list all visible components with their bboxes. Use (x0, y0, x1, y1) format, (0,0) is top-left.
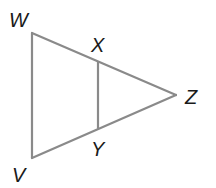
label-w: W (9, 9, 30, 31)
label-z: Z (184, 86, 198, 108)
diagram-canvas: W X Z Y V (0, 0, 216, 188)
label-y: Y (91, 138, 106, 160)
triangle-diagram: W X Z Y V (0, 0, 216, 188)
label-v: V (12, 164, 27, 186)
label-x: X (90, 34, 105, 56)
